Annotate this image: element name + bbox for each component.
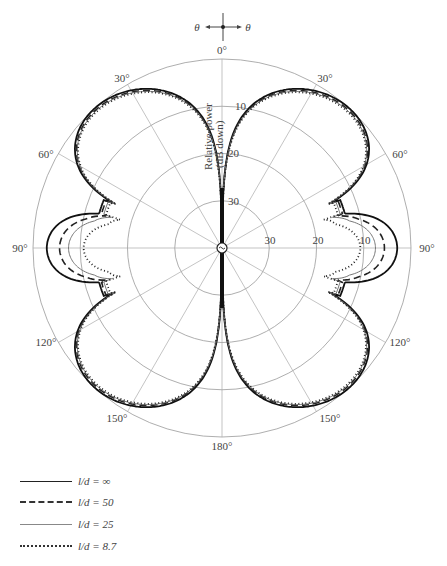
angle-180: 180° [212,440,233,452]
legend-label: l/d = 50 [78,496,114,508]
legend-item-25: l/d = 25 [20,518,114,530]
angle-150-left: 150° [107,412,128,424]
angle-0: 0° [217,44,227,56]
tick-10-vertical: 10 [235,100,247,112]
legend-line-dotted [20,545,72,547]
angle-90-right: 90° [419,242,434,254]
legend-item-infinity: l/d = ∞ [20,475,110,487]
legend-line-thin [20,524,72,525]
tick-20-vertical: 20 [228,147,240,159]
angle-60-right: 60° [392,148,407,160]
angle-120-right: 120° [390,336,411,348]
angle-120-left: 120° [36,336,57,348]
theta-left: θ [194,21,200,33]
legend-label: l/d = ∞ [78,475,110,487]
theta-right: θ [245,21,251,33]
legend-label: l/d = 8.7 [78,540,116,552]
dipole-antenna [217,188,227,308]
radial-axis-label-units: (dB down) [213,120,226,168]
tick-10-horizontal: 10 [360,234,372,246]
tick-30-horizontal: 30 [265,234,277,246]
legend-item-8-7: l/d = 8.7 [20,540,116,552]
angle-150-right: 150° [320,412,341,424]
angle-30-left: 30° [114,72,129,84]
legend-label: l/d = 25 [78,518,114,530]
theta-orientation-marker: θ θ [194,13,251,41]
legend-item-50: l/d = 50 [20,496,114,508]
angle-60-left: 60° [38,148,53,160]
tick-30-vertical: 30 [228,195,240,207]
angle-90-left: 90° [12,242,27,254]
legend-line-dashed [20,501,72,503]
tick-20-horizontal: 20 [313,234,325,246]
legend-line-solid [20,481,72,482]
angle-30-right: 30° [317,72,332,84]
